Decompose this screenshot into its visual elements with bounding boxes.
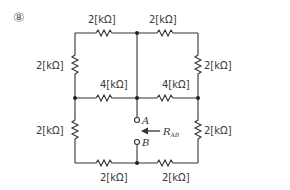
resistor-label-left-upper: 2[kΩ] <box>36 60 64 71</box>
right-lower-resistor <box>195 98 201 163</box>
right-upper-resistor <box>195 33 201 98</box>
resistor-label-right-lower: 2[kΩ] <box>204 125 232 136</box>
resistor-label-bottom-right: 2[kΩ] <box>162 172 190 183</box>
resistance-label: RAB <box>162 126 180 138</box>
circuit-diagram: ⑧ 2[kΩ] 2[kΩ] 2[kΩ] 2[kΩ] 4[kΩ] 4[kΩ] 2[… <box>0 0 290 190</box>
resistor-label-right-upper: 2[kΩ] <box>204 60 232 71</box>
resistor-label-top-left: 2[kΩ] <box>88 14 116 25</box>
resistor-label-middle-left: 4[kΩ] <box>100 79 128 90</box>
terminal-a <box>135 118 140 123</box>
left-lower-resistor <box>72 98 78 163</box>
left-upper-resistor <box>72 33 78 98</box>
terminal-a-label: A <box>141 115 149 126</box>
resistor-label-top-right: 2[kΩ] <box>149 14 177 25</box>
resistor-label-left-lower: 2[kΩ] <box>36 125 64 136</box>
terminal-b-label: B <box>141 137 149 148</box>
resistor-label-middle-right: 4[kΩ] <box>162 79 190 90</box>
arrow-left-icon <box>141 128 160 135</box>
problem-number: ⑧ <box>13 10 25 25</box>
resistor-label-bottom-left: 2[kΩ] <box>100 172 128 183</box>
terminal-b <box>135 140 140 145</box>
